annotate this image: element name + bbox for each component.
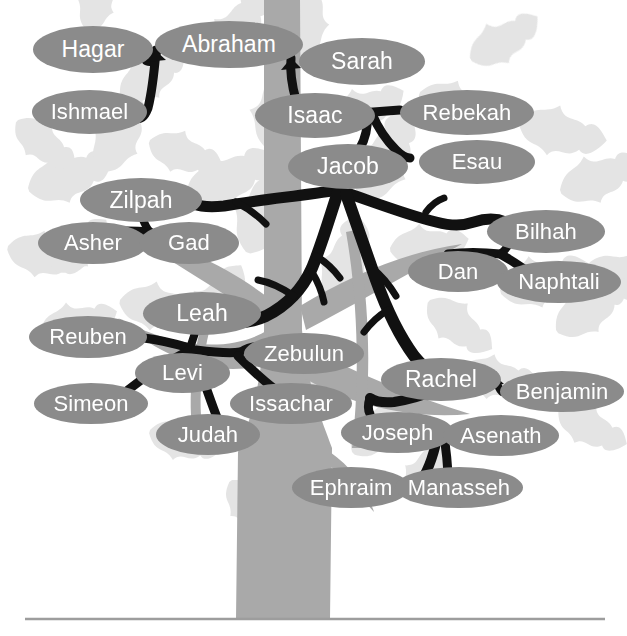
node-label-joseph: Joseph bbox=[362, 421, 434, 443]
node-label-issachar: Issachar bbox=[249, 392, 333, 414]
node-label-judah: Judah bbox=[178, 423, 238, 445]
node-sarah[interactable]: Sarah bbox=[299, 38, 425, 85]
node-leah[interactable]: Leah bbox=[143, 292, 261, 335]
node-levi[interactable]: Levi bbox=[135, 353, 230, 393]
node-joseph[interactable]: Joseph bbox=[341, 412, 454, 453]
node-judah[interactable]: Judah bbox=[156, 414, 260, 455]
node-jacob[interactable]: Jacob bbox=[288, 144, 408, 189]
node-label-isaac: Isaac bbox=[287, 104, 342, 127]
node-abraham[interactable]: Abraham bbox=[155, 21, 303, 68]
node-label-jacob: Jacob bbox=[317, 155, 379, 178]
node-asenath[interactable]: Asenath bbox=[443, 415, 559, 456]
node-isaac[interactable]: Isaac bbox=[255, 93, 375, 138]
node-label-esau: Esau bbox=[452, 151, 503, 173]
node-zilpah[interactable]: Zilpah bbox=[80, 178, 202, 222]
node-label-naphtali: Naphtali bbox=[518, 271, 600, 293]
node-rebekah[interactable]: Rebekah bbox=[400, 90, 534, 135]
node-label-gad: Gad bbox=[168, 232, 210, 254]
node-label-leah: Leah bbox=[176, 302, 228, 325]
node-naphtali[interactable]: Naphtali bbox=[497, 261, 621, 303]
family-tree-diagram: Hagar Abraham Sarah Ishmael Isaac Rebeka… bbox=[0, 0, 627, 636]
node-label-dan: Dan bbox=[438, 260, 479, 282]
node-bilhah[interactable]: Bilhah bbox=[487, 210, 605, 253]
node-label-ephraim: Ephraim bbox=[310, 476, 393, 498]
node-zebulun[interactable]: Zebulun bbox=[244, 333, 364, 374]
node-reuben[interactable]: Reuben bbox=[29, 316, 147, 358]
node-label-benjamin: Benjamin bbox=[516, 380, 609, 402]
node-label-manasseh: Manasseh bbox=[408, 476, 510, 498]
node-esau[interactable]: Esau bbox=[419, 140, 535, 184]
node-ephraim[interactable]: Ephraim bbox=[292, 467, 410, 508]
node-manasseh[interactable]: Manasseh bbox=[395, 467, 523, 508]
node-label-simeon: Simeon bbox=[53, 392, 128, 414]
node-label-ishmael: Ishmael bbox=[51, 101, 129, 123]
node-label-abraham: Abraham bbox=[182, 33, 276, 56]
node-label-hagar: Hagar bbox=[61, 38, 124, 61]
node-label-zebulun: Zebulun bbox=[264, 342, 344, 364]
node-label-bilhah: Bilhah bbox=[515, 220, 577, 242]
node-dan[interactable]: Dan bbox=[408, 251, 508, 292]
node-ishmael[interactable]: Ishmael bbox=[32, 90, 147, 134]
node-rachel[interactable]: Rachel bbox=[381, 358, 501, 401]
node-label-rebekah: Rebekah bbox=[423, 101, 512, 123]
node-benjamin[interactable]: Benjamin bbox=[500, 371, 624, 412]
node-hagar[interactable]: Hagar bbox=[33, 26, 153, 73]
node-asher[interactable]: Asher bbox=[38, 222, 148, 264]
node-label-rachel: Rachel bbox=[405, 368, 477, 391]
node-gad[interactable]: Gad bbox=[139, 222, 239, 264]
node-issachar[interactable]: Issachar bbox=[230, 383, 352, 424]
node-label-levi: Levi bbox=[162, 362, 203, 384]
node-label-reuben: Reuben bbox=[49, 326, 127, 348]
node-simeon[interactable]: Simeon bbox=[34, 383, 148, 424]
node-label-sarah: Sarah bbox=[331, 50, 393, 73]
node-label-asher: Asher bbox=[64, 232, 122, 254]
node-label-zilpah: Zilpah bbox=[109, 188, 172, 211]
person-nodes: Hagar Abraham Sarah Ishmael Isaac Rebeka… bbox=[0, 0, 627, 636]
node-label-asenath: Asenath bbox=[460, 424, 541, 446]
